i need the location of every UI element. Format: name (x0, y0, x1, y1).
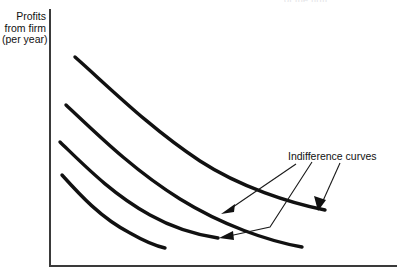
indifference-curves-annotation-label: Indifference curves (288, 150, 377, 162)
leader-line-elbow (229, 162, 312, 236)
indifference-curve-4 (75, 57, 325, 210)
indifference-curve-3 (66, 105, 302, 247)
indifference-curve-1 (62, 175, 165, 248)
leader-line-right (322, 163, 340, 203)
figure-container: of the firm Profits from firm (per year)… (0, 0, 402, 277)
arrow-head-lower-icon (219, 231, 234, 240)
arrow-head-left-icon (221, 204, 235, 214)
indifference-curves-chart (0, 0, 402, 277)
y-axis-label: Profits from firm (per year) (2, 11, 46, 46)
